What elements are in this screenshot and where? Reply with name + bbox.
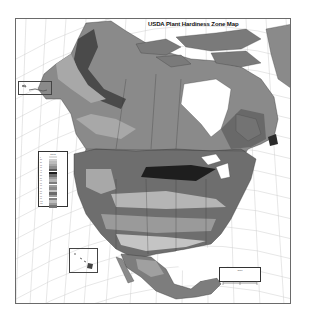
aleutian-islands-graphic — [19, 82, 53, 96]
scale-bar — [221, 280, 259, 286]
zone-label: 7b — [40, 188, 49, 189]
zone-label: 9b — [40, 198, 49, 199]
zone-label: 9a — [40, 196, 49, 197]
zone-label: 10b — [40, 203, 49, 204]
aleutian-inset — [18, 81, 52, 95]
zone-label: 6a — [40, 180, 49, 181]
zone-label: 2b — [40, 162, 49, 163]
zone-legend-list: 12a2b3a3b4a4b5a5b6a6b7a7b8a8b9a9b10a10b1… — [40, 156, 66, 208]
hawaii-islands-graphic — [70, 249, 99, 274]
zone-legend-row: 11 — [40, 205, 66, 208]
zone-label: 5b — [40, 178, 49, 179]
zone-label: 5a — [40, 175, 49, 176]
zone-label: 3b — [40, 167, 49, 168]
zone-label: 4a — [40, 170, 49, 171]
zone-label: 6b — [40, 183, 49, 184]
zone-swatch — [49, 205, 57, 207]
scale-box: Scale — [219, 267, 261, 282]
zone-label: 8b — [40, 193, 49, 194]
zone-label: 2a — [40, 159, 49, 160]
zone-label: 10a — [40, 201, 49, 202]
map-title: USDA Plant Hardiness Zone Map — [148, 21, 239, 27]
scale-label: Scale — [221, 269, 259, 272]
zone-label: 7a — [40, 185, 49, 186]
zone-label: 4b — [40, 172, 49, 173]
zone-legend: Zones 12a2b3a3b4a4b5a5b6a6b7a7b8a8b9a9b1… — [38, 151, 68, 207]
hawaii-inset — [69, 248, 98, 273]
zone-label: 1 — [40, 157, 49, 158]
map-frame: USDA Plant Hardiness Zone Map Zones 12a2… — [15, 18, 291, 304]
zone-label: 11 — [40, 206, 49, 207]
zone-label: 8a — [40, 191, 49, 192]
zone-label: 3a — [40, 165, 49, 166]
